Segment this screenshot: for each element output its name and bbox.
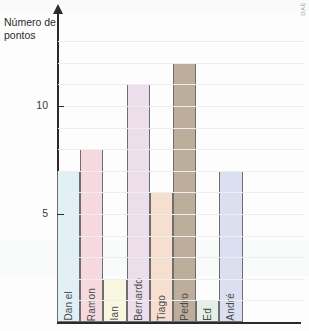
gridline [58, 41, 305, 42]
gridline [58, 257, 305, 258]
bar-label: Bernardo [133, 275, 144, 321]
bar-label: Ian [109, 303, 120, 321]
gridline [58, 236, 305, 237]
bar-label: Daniel [63, 288, 74, 321]
bar-label: André [225, 290, 236, 321]
gridline [58, 63, 305, 64]
gridline [58, 214, 305, 215]
bar-andré: André [219, 171, 242, 322]
y-axis-tick [57, 214, 64, 215]
gridline [58, 300, 305, 301]
gridline [58, 84, 305, 85]
bar-chart: DAE Número de pontos DanielRamonIanBerna… [0, 0, 309, 331]
gridline [58, 106, 305, 107]
bar-label: Ramon [86, 285, 97, 321]
y-axis-tick-label: 10 [8, 99, 48, 111]
gridline [58, 192, 305, 193]
gridline [58, 128, 305, 129]
bar-bernardo: Bernardo [127, 84, 150, 322]
bar-label: Ed [202, 305, 213, 321]
y-axis-tick-label: 5 [8, 207, 48, 219]
gridline [58, 279, 305, 280]
y-axis-tick [57, 106, 64, 107]
gridline [58, 149, 305, 150]
bar-ed: Ed [196, 300, 219, 322]
bar-label: Tiago [156, 292, 167, 321]
bar-label: Pedro [179, 290, 190, 321]
gridline [58, 171, 305, 172]
bar-daniel: Daniel [57, 171, 80, 322]
plot-area: DanielRamonIanBernardoTiagoPedroEdAndré [0, 0, 309, 331]
